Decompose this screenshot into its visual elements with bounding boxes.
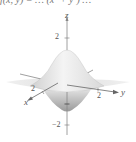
surface-peak (30, 50, 104, 92)
z-axis-label: z (65, 10, 69, 20)
z-tick-neg-label: −2 (52, 120, 61, 129)
y-arrow-icon (113, 90, 119, 94)
surface-plot (0, 0, 136, 142)
z-tick-pos-label: 2 (55, 32, 59, 41)
y-axis-label: y (121, 87, 125, 97)
x-tick-label: 2 (31, 84, 35, 93)
x-axis-label: x (24, 97, 28, 107)
y-tick-label: 2 (97, 91, 101, 100)
